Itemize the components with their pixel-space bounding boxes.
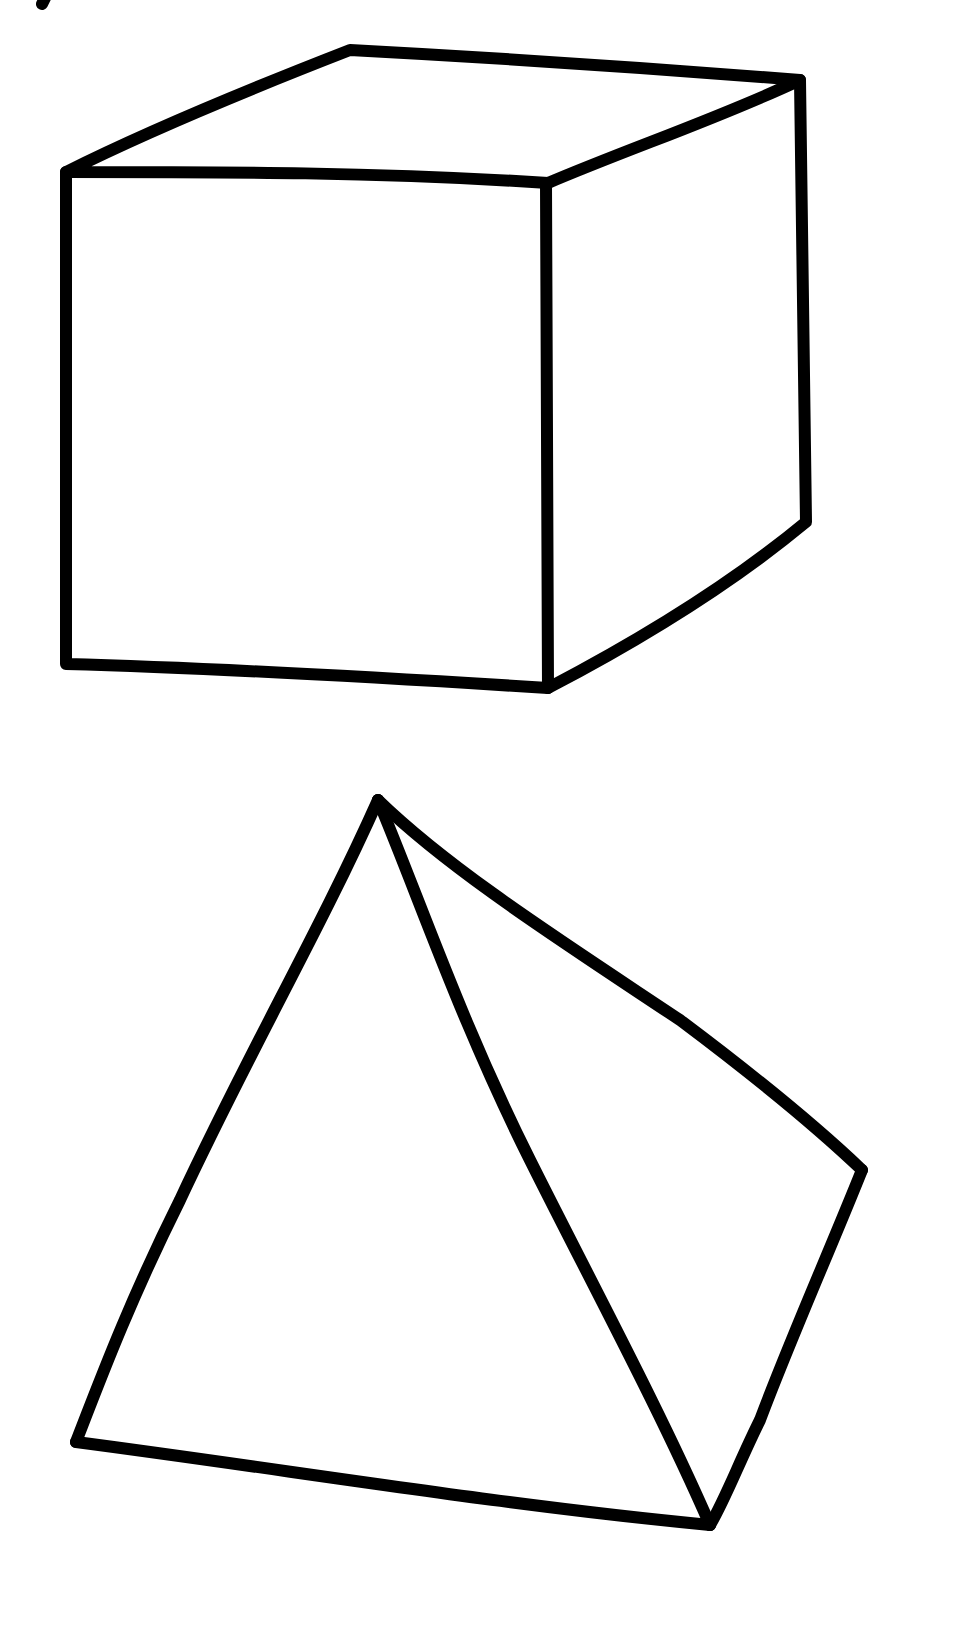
pyramid-front-edge — [378, 800, 710, 1525]
cube-front-face — [66, 172, 548, 688]
pyramid — [76, 800, 862, 1525]
pyramid-left-edge — [76, 800, 378, 1442]
cropped-mark — [42, 0, 46, 4]
cube-top-face — [66, 50, 800, 183]
pyramid-right-edge — [710, 1170, 862, 1525]
cube — [66, 50, 806, 688]
drawing-canvas — [0, 0, 974, 1646]
pyramid-base-edge — [76, 1442, 710, 1525]
